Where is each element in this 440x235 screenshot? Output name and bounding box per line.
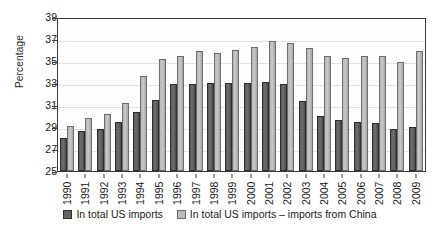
- bar-series1-1991: [78, 131, 85, 171]
- bar-group: [280, 19, 294, 171]
- bar-group: [207, 19, 221, 171]
- x-axis-tick-label-2007: 2007: [374, 182, 385, 205]
- x-axis-tick-mark: [397, 174, 398, 178]
- x-axis-tick-mark: [415, 174, 416, 178]
- x-axis-tick-mark: [177, 174, 178, 178]
- bar-series1-1994: [133, 112, 140, 171]
- bar-series1-2008: [390, 129, 397, 171]
- bar-series2-2008: [397, 62, 404, 171]
- x-axis-tick: 2009: [408, 174, 424, 210]
- x-axis-tick-label-1990: 1990: [62, 182, 73, 205]
- bar-group: [390, 19, 404, 171]
- x-axis-tick-label-1991: 1991: [80, 182, 91, 205]
- x-axis-tick: 1998: [206, 174, 222, 210]
- x-axis-tick-mark: [360, 174, 361, 178]
- bar-series2-2007: [379, 56, 386, 172]
- series2-swatch-icon: [177, 210, 186, 219]
- x-axis-tick: 1993: [114, 174, 130, 210]
- bar-chart: Percentage 2527293133353739 199019911992…: [0, 0, 440, 235]
- bar-series1-2005: [335, 120, 342, 171]
- bar-group: [115, 19, 129, 171]
- x-axis-tick-label-2002: 2002: [282, 182, 293, 205]
- x-axis-tick-mark: [195, 174, 196, 178]
- bar-series1-2004: [317, 116, 324, 171]
- x-axis-tick-mark: [122, 174, 123, 178]
- x-axis-tick-mark: [324, 174, 325, 178]
- bar-series1-2007: [372, 123, 379, 171]
- x-axis-tick: 1990: [59, 174, 75, 210]
- x-axis-tick-label-1997: 1997: [190, 182, 201, 205]
- x-axis-tick: 2000: [243, 174, 259, 210]
- bar-series2-1990: [67, 126, 74, 171]
- bar-series1-2000: [244, 83, 251, 171]
- x-axis-tick-mark: [103, 174, 104, 178]
- bar-series2-1998: [214, 53, 221, 171]
- x-axis-tick-label-1992: 1992: [98, 182, 109, 205]
- bar-series1-1997: [189, 84, 196, 171]
- x-axis-tick-label-2001: 2001: [264, 182, 275, 205]
- x-axis-tick-label-1996: 1996: [172, 182, 183, 205]
- x-axis-tick-label-2009: 2009: [411, 182, 422, 205]
- x-axis-tick-label-2003: 2003: [300, 182, 311, 205]
- bar-series2-2002: [287, 43, 294, 171]
- legend-item-2[interactable]: In total US imports – imports from China: [177, 208, 377, 220]
- x-axis-tick-mark: [342, 174, 343, 178]
- x-axis-tick: 1996: [169, 174, 185, 210]
- bar-series1-1995: [152, 100, 159, 172]
- bar-group: [133, 19, 147, 171]
- x-axis-tick: 2006: [353, 174, 369, 210]
- bar-series1-2002: [280, 84, 287, 171]
- chart-legend: In total US importsIn total US imports –…: [0, 208, 440, 220]
- x-axis-tick-mark: [287, 174, 288, 178]
- bar-series2-2005: [342, 58, 349, 171]
- bar-series1-2001: [262, 82, 269, 171]
- x-axis-tick-mark: [85, 174, 86, 178]
- x-axis-tick-mark: [67, 174, 68, 178]
- bar-group: [354, 19, 368, 171]
- x-axis-tick-mark: [250, 174, 251, 178]
- x-axis-tick: 1994: [132, 174, 148, 210]
- bar-group: [60, 19, 74, 171]
- x-axis-tick: 2003: [298, 174, 314, 210]
- x-axis-tick-mark: [213, 174, 214, 178]
- plot-area: [57, 18, 426, 172]
- bar-series1-2003: [299, 101, 306, 171]
- x-axis-tick-mark: [158, 174, 159, 178]
- x-axis-tick: 2008: [389, 174, 405, 210]
- bar-series2-2000: [251, 47, 258, 171]
- x-axis-tick: 1992: [96, 174, 112, 210]
- x-axis-tick-label-2004: 2004: [319, 182, 330, 205]
- bar-series2-2003: [306, 48, 313, 171]
- x-axis-tick-label-2005: 2005: [337, 182, 348, 205]
- bar-series2-1995: [159, 59, 166, 171]
- bar-series2-1999: [232, 50, 239, 171]
- bar-group: [317, 19, 331, 171]
- x-axis-tick-label-1994: 1994: [135, 182, 146, 205]
- bar-group: [262, 19, 276, 171]
- legend-item-1[interactable]: In total US imports: [63, 208, 162, 220]
- bar-series2-1994: [140, 76, 147, 171]
- x-axis-tick-mark: [140, 174, 141, 178]
- x-axis-tick-label-1995: 1995: [154, 182, 165, 205]
- bar-group: [244, 19, 258, 171]
- x-axis-tick: 2002: [279, 174, 295, 210]
- bar-series1-2006: [354, 122, 361, 172]
- bar-groups: [58, 19, 425, 171]
- x-axis-tick-label-2006: 2006: [356, 182, 367, 205]
- x-axis-tick: 1999: [224, 174, 240, 210]
- x-axis-tick-label-2008: 2008: [392, 182, 403, 205]
- bar-series2-1996: [177, 56, 184, 172]
- bar-series1-1992: [97, 129, 104, 171]
- bar-group: [299, 19, 313, 171]
- x-axis-tick-label-1993: 1993: [117, 182, 128, 205]
- bar-series2-1992: [104, 114, 111, 171]
- x-axis-tick-labels: 1990199119921993199419951996199719981999…: [57, 174, 426, 210]
- bar-group: [189, 19, 203, 171]
- bar-group: [225, 19, 239, 171]
- bar-series1-1996: [170, 84, 177, 171]
- bar-series2-2006: [361, 56, 368, 172]
- bar-series1-1990: [60, 138, 67, 171]
- bar-series2-2009: [416, 51, 423, 171]
- x-axis-tick: 2007: [371, 174, 387, 210]
- x-axis-tick: 1991: [77, 174, 93, 210]
